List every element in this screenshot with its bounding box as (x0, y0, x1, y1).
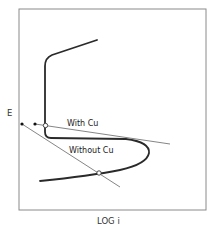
start-dot-with-cu (33, 122, 36, 125)
anodic-polarization-curve (40, 40, 149, 181)
y-axis-label: E (7, 108, 12, 118)
cathodic-line-with-cu (35, 124, 170, 144)
label-without-cu: Without Cu (69, 146, 113, 155)
intersection-marker-with-cu (43, 123, 47, 127)
polarization-diagram: With Cu Without Cu E LOG i (0, 0, 215, 227)
intersection-marker-without-cu (97, 171, 101, 175)
start-dot-without-cu (20, 122, 23, 125)
x-axis-label: LOG i (97, 216, 120, 226)
label-with-cu: With Cu (67, 119, 98, 128)
